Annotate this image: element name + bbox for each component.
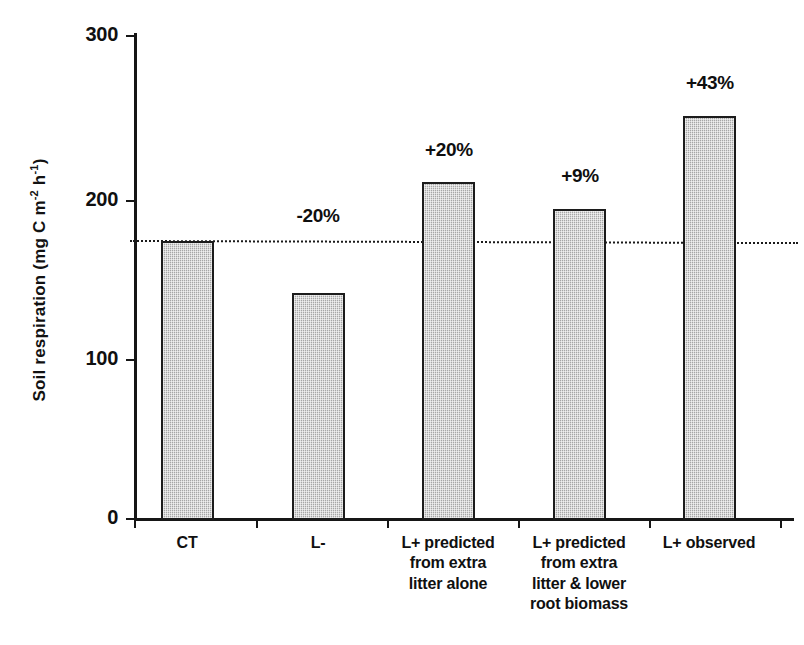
category-label-l-plus-predicted-litter: L+ predicted from extra litter alone bbox=[380, 533, 516, 594]
category-label-ct-line-0: CT bbox=[119, 533, 255, 553]
y-tick-mark-200 bbox=[126, 200, 135, 202]
y-axis-exponent-time: -1 bbox=[28, 164, 40, 174]
value-label-l-plus-predicted-litter-root: +9% bbox=[520, 165, 640, 187]
y-axis-exponent-area: -2 bbox=[28, 190, 40, 200]
value-label-l-minus: -20% bbox=[258, 205, 378, 227]
soil-respiration-bar-chart: Soil respiration (mg C m-2 h-1) 300 200 … bbox=[0, 0, 804, 645]
y-axis-line bbox=[134, 33, 137, 520]
category-label-l-plus-predicted-litter-root-line-0: L+ predicted bbox=[511, 533, 647, 553]
y-tick-label-300: 300 bbox=[56, 23, 118, 46]
category-label-l-plus-observed-line-0: L+ observed bbox=[641, 533, 777, 553]
bar-ct bbox=[161, 241, 214, 520]
x-tick-mark-1 bbox=[256, 519, 258, 528]
y-tick-label-0: 0 bbox=[56, 506, 118, 529]
y-axis-title: Soil respiration (mg C m-2 h-1) bbox=[30, 60, 50, 500]
x-tick-mark-0 bbox=[134, 519, 136, 528]
y-tick-mark-300 bbox=[126, 35, 135, 37]
category-label-l-minus-line-0: L- bbox=[250, 533, 386, 553]
x-tick-mark-2 bbox=[387, 519, 389, 528]
category-label-l-plus-predicted-litter-root-line-3: root biomass bbox=[511, 594, 647, 614]
category-label-l-plus-predicted-litter-root-line-1: from extra bbox=[511, 553, 647, 573]
y-tick-label-200: 200 bbox=[56, 188, 118, 211]
category-label-l-plus-predicted-litter-line-0: L+ predicted bbox=[380, 533, 516, 553]
bar-l-minus bbox=[292, 293, 345, 520]
value-label-l-plus-observed: +43% bbox=[650, 72, 770, 94]
category-label-l-minus: L- bbox=[250, 533, 386, 553]
y-tick-mark-100 bbox=[126, 359, 135, 361]
bar-l-plus-predicted-litter bbox=[422, 182, 475, 520]
x-tick-mark-5 bbox=[780, 519, 782, 528]
x-tick-mark-3 bbox=[518, 519, 520, 528]
y-tick-label-100: 100 bbox=[56, 347, 118, 370]
category-label-l-plus-observed: L+ observed bbox=[641, 533, 777, 553]
category-label-l-plus-predicted-litter-root-line-2: litter & lower bbox=[511, 574, 647, 594]
x-tick-mark-4 bbox=[649, 519, 651, 528]
value-label-l-plus-predicted-litter: +20% bbox=[389, 139, 509, 161]
bar-l-plus-observed bbox=[683, 116, 736, 521]
category-label-l-plus-predicted-litter-root: L+ predicted from extra litter & lower r… bbox=[511, 533, 647, 615]
bar-l-plus-predicted-litter-root bbox=[553, 209, 606, 520]
category-label-l-plus-predicted-litter-line-1: from extra bbox=[380, 553, 516, 573]
category-label-l-plus-predicted-litter-line-2: litter alone bbox=[380, 574, 516, 594]
category-label-ct: CT bbox=[119, 533, 255, 553]
